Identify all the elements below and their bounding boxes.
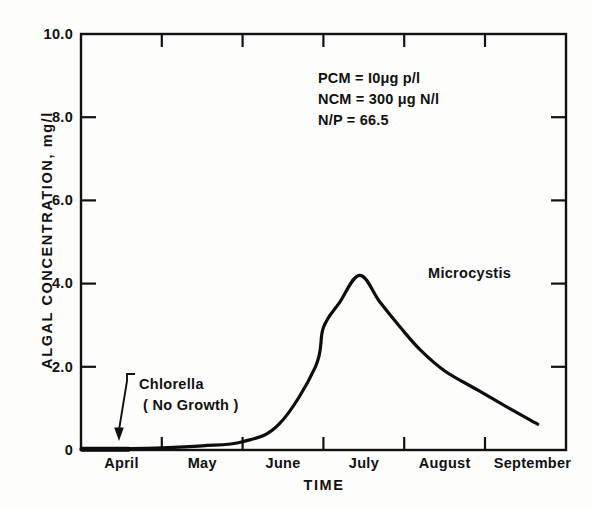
y-tick-label-4: 4.0	[13, 275, 73, 291]
annotation-pcm: PCM = I0μg p/l	[318, 68, 439, 89]
microcystis-series-line	[81, 275, 538, 449]
y-tick-label-10: 10.0	[13, 26, 73, 42]
y-axis-ticks-right	[551, 117, 566, 367]
chlorella-name: Chlorella	[139, 374, 239, 395]
x-axis-title: TIME	[81, 477, 567, 493]
x-tick-label-april: April	[81, 455, 162, 471]
microcystis-series-label: Microcystis	[428, 265, 511, 281]
y-axis-title: ALGAL CONCENTRATION, mg/l	[39, 90, 55, 390]
x-tick-label-september: September	[485, 455, 580, 471]
x-axis-ticks-top	[162, 34, 485, 47]
plot-canvas	[0, 0, 592, 510]
x-tick-label-august: August	[404, 455, 485, 471]
annotation-ncm: NCM = 300 μg N/l	[318, 89, 439, 110]
x-tick-label-may: May	[162, 455, 243, 471]
x-tick-label-july: July	[323, 455, 404, 471]
chlorella-no-growth-note: ( No Growth )	[139, 395, 239, 416]
y-tick-label-6: 6.0	[13, 192, 73, 208]
y-tick-label-8: 8.0	[13, 109, 73, 125]
x-axis-ticks	[162, 437, 485, 450]
parameter-annotations: PCM = I0μg p/l NCM = 300 μg N/l N/P = 66…	[318, 68, 439, 131]
y-tick-label-2: 2.0	[13, 359, 73, 375]
y-tick-label-0: 0	[13, 442, 73, 458]
y-axis-ticks	[81, 117, 96, 367]
algal-concentration-figure: ALGAL CONCENTRATION, mg/l 10.0 8.0 6.0 4…	[0, 0, 592, 510]
x-tick-label-june: June	[243, 455, 324, 471]
chlorella-callout-arrow	[114, 374, 135, 441]
chlorella-series-label: Chlorella ( No Growth )	[139, 374, 239, 416]
annotation-np: N/P = 66.5	[318, 110, 439, 131]
